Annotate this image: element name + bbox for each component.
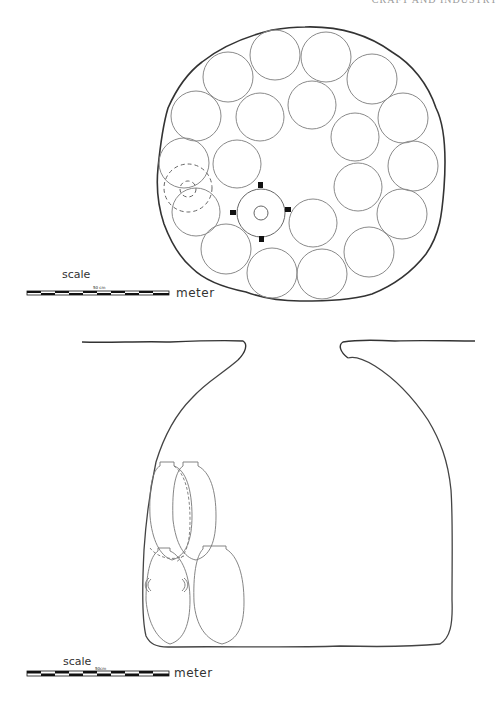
plan-view [157,27,445,301]
central-post-hole [237,189,285,237]
jar-position-circle [171,91,221,141]
jar-lower-left [146,548,190,644]
jar-handle-right [182,578,188,592]
jar-positions [159,30,438,299]
jar-position-circle [203,52,253,102]
jar-position-circle [344,227,394,277]
jar-position-circle [250,30,300,80]
section-scale-label: scale [63,655,91,668]
jar-position-circle [378,93,428,143]
jar-position-circle [301,32,351,82]
storage-jars [145,462,244,644]
jar-position-circle [334,163,382,211]
section-scale-bar [27,671,169,676]
jar-upper-right [173,462,216,560]
jar-position-circle [201,224,251,274]
plan-scale-label: scale [62,268,90,281]
section-view [82,340,475,647]
plan-scale-bar [27,291,169,295]
jar-position-circle [247,248,297,298]
jar-position-circle [213,140,261,188]
ground-line-right [340,340,475,358]
jar-upper-right-hidden [174,466,190,562]
jar-position-circle [297,249,347,299]
jar-position-circle [289,199,337,247]
post-markers [230,182,291,242]
archaeological-drawing [0,0,498,701]
section-scale-mid-label: 50cm [95,666,106,671]
plan-scale-unit: meter [176,286,215,300]
jar-position-circle [288,81,336,129]
jar-position-circle [172,188,220,236]
jar-position-circle [377,189,427,239]
ground-line-left [82,341,246,360]
jar-upper-left [150,462,192,560]
jar-position-circle [159,138,209,188]
section-scale-unit: meter [174,666,213,680]
jar-position-circle [331,113,379,161]
jar-position-circle [236,93,284,141]
plan-scale-mid-label: 50 cm [93,285,105,290]
jar-lower-right [194,546,244,644]
jar-position-circle [388,141,438,191]
